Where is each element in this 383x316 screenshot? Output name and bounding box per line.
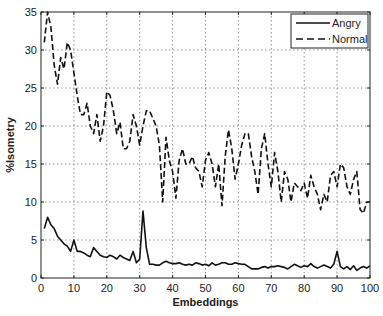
legend-label-angry: Angry	[332, 17, 361, 29]
x-tick-label: 90	[331, 282, 343, 294]
x-tick-label: 60	[232, 282, 244, 294]
x-tick-label: 70	[265, 282, 277, 294]
x-tick-label: 30	[134, 282, 146, 294]
x-tick-label: 0	[38, 282, 44, 294]
x-tick-label: 80	[298, 282, 310, 294]
line-chart: 010203040506070809010005101520253035 Emb…	[0, 0, 383, 316]
x-tick-label: 40	[166, 282, 178, 294]
y-tick-label: 5	[31, 234, 37, 246]
y-tick-label: 25	[25, 82, 37, 94]
y-tick-label: 35	[25, 6, 37, 18]
legend-label-normal: Normal	[332, 33, 367, 45]
series-line-angry	[44, 211, 370, 270]
grid-lines	[41, 12, 370, 278]
plot-series	[44, 12, 370, 270]
y-tick-label: 30	[25, 44, 37, 56]
y-axis-label: %Isometry	[4, 116, 16, 173]
x-tick-label: 10	[68, 282, 80, 294]
x-tick-label: 100	[361, 282, 379, 294]
x-tick-label: 50	[199, 282, 211, 294]
y-tick-label: 0	[31, 272, 37, 284]
y-tick-label: 15	[25, 158, 37, 170]
x-axis-label: Embeddings	[172, 296, 238, 308]
y-tick-label: 20	[25, 120, 37, 132]
y-tick-label: 10	[25, 196, 37, 208]
legend: Angry Normal	[291, 14, 368, 48]
x-tick-label: 20	[101, 282, 113, 294]
